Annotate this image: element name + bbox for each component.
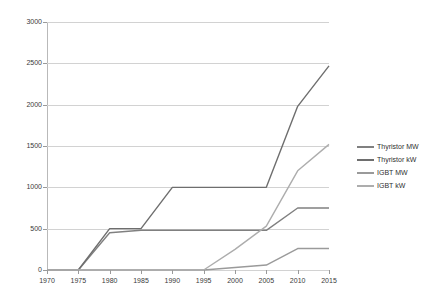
legend-color-swatch (357, 172, 374, 174)
series-line-thyristor-mw (47, 208, 329, 270)
y-tick-mark (43, 63, 47, 64)
legend-label: Thyristor kW (377, 156, 416, 163)
legend-item[interactable]: IGBT kW (357, 179, 439, 192)
legend-item[interactable]: IGBT MW (357, 166, 439, 179)
y-tick-mark (43, 22, 47, 23)
x-tick-mark (172, 270, 173, 274)
x-tick-mark (235, 270, 236, 274)
legend-item[interactable]: Thyristor MW (357, 140, 439, 153)
x-tick-mark (141, 270, 142, 274)
legend-color-swatch (357, 146, 374, 148)
legend-color-swatch (357, 185, 374, 187)
line-chart: 050010001500200025003000 197019751980198… (0, 0, 440, 303)
x-tick-mark (266, 270, 267, 274)
x-tick-mark (298, 270, 299, 274)
x-tick-mark (110, 270, 111, 274)
legend-item[interactable]: Thyristor kW (357, 153, 439, 166)
legend-color-swatch (357, 159, 374, 161)
y-tick-mark (43, 229, 47, 230)
y-tick-mark (43, 187, 47, 188)
x-tick-mark (204, 270, 205, 274)
chart-legend: Thyristor MWThyristor kWIGBT MWIGBT kW (357, 140, 439, 192)
series-line-igbt-mw (47, 249, 329, 270)
legend-label: Thyristor MW (377, 143, 419, 150)
legend-label: IGBT kW (377, 182, 405, 189)
y-tick-mark (43, 146, 47, 147)
y-tick-mark (43, 105, 47, 106)
series-line-thyristor-kw (47, 66, 329, 270)
legend-label: IGBT MW (377, 169, 408, 176)
x-tick-mark (329, 270, 330, 274)
x-tick-mark (47, 270, 48, 274)
series-line-igbt-kw (47, 144, 329, 270)
x-tick-mark (78, 270, 79, 274)
